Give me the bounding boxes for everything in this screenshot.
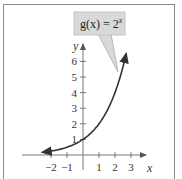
callout-pointer [98,34,118,72]
y-tick-label: 5 [72,71,78,83]
x-tick-label: 2 [112,161,118,173]
function-label: g(x) = 2x [80,16,123,31]
x-tick-label: 3 [128,161,134,173]
x-tick-label: −1 [61,161,73,173]
x-axis-label: x [146,161,153,175]
exponential-chart: −2−1123123456xyg(x) = 2x [0,0,182,179]
exponential-curve [42,54,126,153]
x-tick-label: −2 [45,161,57,173]
y-tick-label: 2 [72,118,78,130]
y-axis-label: y [72,39,79,53]
y-tick-label: 3 [72,102,78,114]
x-tick-label: 1 [96,161,102,173]
y-tick-label: 6 [72,55,78,67]
y-tick-label: 4 [72,87,78,99]
